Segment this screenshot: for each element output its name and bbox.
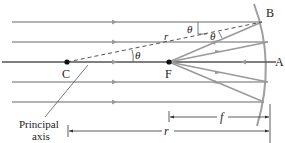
principal-axis-label-line1: Principal [19, 118, 59, 130]
dimension-f: f [169, 104, 270, 143]
mirror-diagram: C F A B θ θ θ r Principal axis f r [0, 0, 285, 143]
angle-mark-b-bottom [219, 32, 222, 38]
angle-mark-c [132, 50, 133, 62]
dimension-f-label: f [220, 110, 225, 124]
label-c: C [62, 67, 70, 81]
theta-label-c: θ [135, 49, 141, 61]
radius-label: r [164, 30, 169, 42]
point-c [64, 59, 69, 64]
angle-mark-b-top [198, 22, 207, 34]
theta-label-b-bottom: θ [210, 30, 216, 42]
dimension-r-label: r [164, 124, 169, 138]
label-f: F [165, 67, 172, 81]
point-f [166, 59, 171, 64]
label-b: B [266, 6, 274, 20]
label-a: A [275, 55, 284, 69]
principal-axis-label-line2: axis [32, 130, 50, 142]
theta-label-b-top: θ [187, 23, 193, 35]
dimension-r: r [68, 124, 269, 138]
